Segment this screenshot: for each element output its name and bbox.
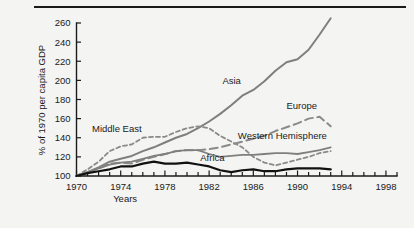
chart-figure: 1001201401601802002202402601970197419781… (0, 0, 414, 228)
series-label-western-hemisphere: Western Hemisphere (238, 130, 327, 141)
y-tick-label-240: 240 (55, 37, 71, 48)
x-tick-label-1974: 1974 (110, 181, 131, 192)
y-tick-label-260: 260 (55, 17, 71, 28)
line-chart: 1001201401601802002202402601970197419781… (0, 0, 414, 228)
x-tick-label-1982: 1982 (199, 181, 220, 192)
x-tick-label-1970: 1970 (66, 181, 87, 192)
y-tick-label-180: 180 (55, 94, 71, 105)
series-label-asia: Asia (222, 75, 241, 86)
series-label-middle-east: Middle East (92, 123, 142, 134)
y-tick-label-220: 220 (55, 56, 71, 67)
x-tick-label-1998: 1998 (375, 181, 396, 192)
y-axis-title: % of 1970 per capita GDP (36, 45, 47, 155)
series-label-europe: Europe (286, 100, 317, 111)
x-axis-title: Years (113, 193, 137, 204)
y-tick-label-120: 120 (55, 151, 71, 162)
y-tick-label-160: 160 (55, 113, 71, 124)
x-tick-label-1986: 1986 (243, 181, 264, 192)
y-tick-label-200: 200 (55, 75, 71, 86)
x-tick-label-1994: 1994 (331, 181, 352, 192)
series-label-africa: Africa (200, 152, 225, 163)
y-tick-label-140: 140 (55, 132, 71, 143)
x-tick-label-1978: 1978 (154, 181, 175, 192)
x-tick-label-1990: 1990 (287, 181, 308, 192)
